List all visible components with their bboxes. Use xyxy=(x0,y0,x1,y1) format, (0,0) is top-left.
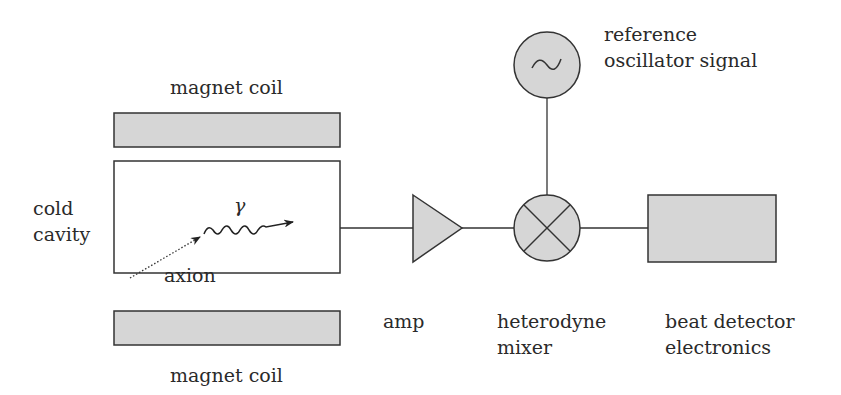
amp-label: amp xyxy=(383,309,425,333)
magnet-coil-bottom xyxy=(114,311,340,345)
gamma-label: γ xyxy=(234,193,245,217)
cold-cavity-box xyxy=(114,161,340,273)
oscillator-sine-icon xyxy=(514,32,580,98)
reference-label: reference xyxy=(604,22,697,46)
mixer-icon xyxy=(514,195,580,261)
axion-detector-diagram: magnet coil magnet coil cold cavity γ ax… xyxy=(0,0,841,395)
oscillator-signal-label: oscillator signal xyxy=(604,48,757,72)
beat-detector-label: beat detector xyxy=(665,309,795,333)
cavity-label: cavity xyxy=(33,222,90,246)
cold-label: cold xyxy=(33,196,73,220)
magnet-coil-bottom-label: magnet coil xyxy=(170,363,283,387)
magnet-coil-top xyxy=(114,113,340,147)
magnet-coil-top-label: magnet coil xyxy=(170,75,283,99)
beat-detector-box xyxy=(648,195,776,262)
heterodyne-label: heterodyne xyxy=(497,309,606,333)
axion-label: axion xyxy=(164,263,216,287)
electronics-label: electronics xyxy=(665,335,771,359)
amp-icon xyxy=(413,195,462,262)
mixer-label: mixer xyxy=(497,335,552,359)
